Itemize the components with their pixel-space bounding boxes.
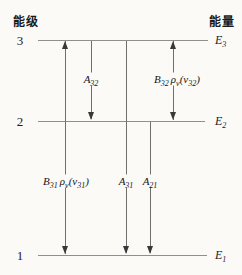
- label-A31: A31: [116, 175, 137, 188]
- level-3-number: 3: [13, 33, 27, 49]
- axis-title-energy-level: 能级: [13, 12, 39, 29]
- level-3-energy-label: E3: [215, 33, 226, 48]
- energy-subscript: 2: [222, 121, 226, 130]
- level-1-energy-label: E1: [215, 248, 226, 263]
- arrowhead-down-icon: [147, 246, 153, 254]
- arrowhead-down-icon: [88, 112, 94, 120]
- axis-title-energy: 能量: [209, 12, 235, 29]
- transition-A31-arrow: [126, 41, 127, 253]
- level-1-line: [38, 255, 207, 256]
- label-B31: B31ρν(ν31): [40, 175, 92, 188]
- arrowhead-down-icon: [62, 246, 68, 254]
- energy-level-diagram: 能级 能量 3 E3 2 E2 1 E1 B31ρν(ν31) A32 A31 …: [0, 0, 242, 275]
- arrowhead-down-icon: [170, 112, 176, 120]
- label-A21: A21: [140, 175, 161, 188]
- label-B32: B32ρν(ν32): [151, 73, 203, 86]
- arrowhead-up-icon: [170, 41, 176, 49]
- label-A32: A32: [81, 73, 102, 86]
- energy-subscript: 3: [222, 40, 226, 49]
- level-2-number: 2: [13, 114, 27, 130]
- transition-B31-arrow: [65, 41, 66, 254]
- arrowhead-down-icon: [123, 246, 129, 254]
- level-2-energy-label: E2: [215, 114, 226, 129]
- energy-subscript: 1: [222, 255, 226, 264]
- level-1-number: 1: [13, 248, 27, 264]
- arrowhead-up-icon: [62, 41, 68, 49]
- level-2-line: [38, 121, 205, 122]
